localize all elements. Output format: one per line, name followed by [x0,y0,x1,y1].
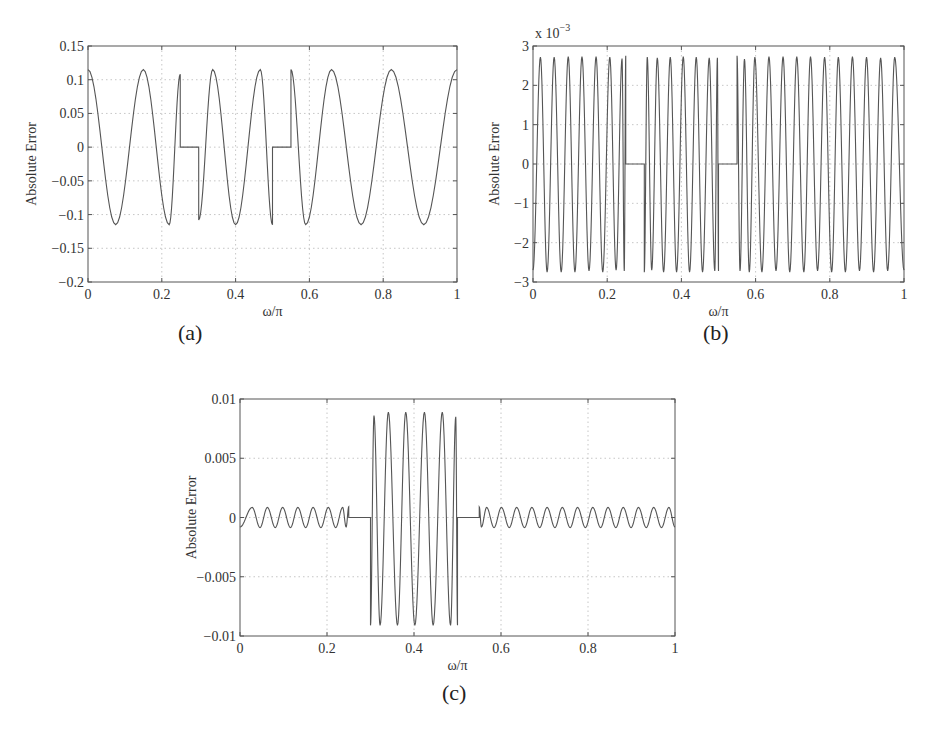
y-tick-label: 0.15 [60,39,85,54]
y-tick-label: 2 [522,78,529,93]
y-tick-label: −0.2 [59,275,84,290]
x-tick-label: 0.4 [673,287,691,302]
caption-c: (c) [442,680,466,706]
y-tick-label: −0.01 [204,629,236,644]
caption-a: (a) [178,320,202,346]
y-axis-ticks: 3210−1−2−3 [514,39,904,290]
x-tick-label: 0 [85,287,92,302]
chart-c-plot: 00.20.40.60.810.010.0050−0.005−0.01ω/πAb… [0,360,930,680]
y-tick-label: 0.005 [205,451,237,466]
y-tick-label: 1 [522,118,529,133]
chart-c: 00.20.40.60.810.010.0050−0.005−0.01ω/πAb… [0,360,930,680]
chart-a-plot: 00.20.40.60.810.150.10.050−0.05−0.1−0.15… [0,0,470,350]
y-tick-label: 0 [77,140,84,155]
x-tick-label: 0.8 [579,641,597,656]
caption-b: (b) [703,320,729,346]
y-tick-label: 0.1 [67,73,85,88]
x-tick-label: 0 [530,287,537,302]
y-tick-label: −0.1 [59,208,84,223]
y-tick-label: 0.01 [212,392,237,407]
y-tick-label: −3 [514,275,529,290]
y-tick-label: −0.05 [52,174,84,189]
y-tick-label: 0 [522,157,529,172]
y-axis-label: Absolute Error [24,122,39,206]
y-tick-label: 0.05 [60,106,85,121]
x-tick-label: 0.6 [492,641,510,656]
x-tick-label: 0.2 [153,287,171,302]
x-tick-label: 0.8 [374,287,392,302]
chart-b-plot: 00.20.40.60.813210−1−2−3ω/πAbsolute Erro… [460,0,930,350]
x-tick-label: 0.2 [318,641,336,656]
x-axis-label: ω/π [447,658,467,673]
y-tick-label: −1 [514,196,529,211]
y-axis-label: Absolute Error [487,122,502,206]
y-axis-label: Absolute Error [184,475,199,559]
chart-a: 00.20.40.60.810.150.10.050−0.05−0.1−0.15… [0,0,470,350]
y-scale-multiplier: x 10−3 [535,22,570,41]
x-axis-label: ω/π [262,304,282,319]
x-tick-label: 1 [672,641,679,656]
x-tick-label: 0.6 [301,287,319,302]
y-axis-ticks: 0.010.0050−0.005−0.01 [197,392,675,644]
x-tick-label: 0.2 [598,287,616,302]
y-tick-label: −2 [514,236,529,251]
y-tick-label: −0.005 [197,570,236,585]
x-tick-label: 0.4 [405,641,423,656]
x-tick-label: 0.4 [227,287,245,302]
y-tick-label: 3 [522,39,529,54]
x-tick-label: 1 [901,287,908,302]
y-tick-label: 0 [229,511,236,526]
x-tick-label: 0.8 [821,287,839,302]
error-curve [240,412,675,625]
chart-b: 00.20.40.60.813210−1−2−3ω/πAbsolute Erro… [460,0,930,350]
x-tick-label: 0 [237,641,244,656]
x-axis-label: ω/π [708,304,728,319]
x-tick-label: 0.6 [747,287,765,302]
y-tick-label: −0.15 [52,241,84,256]
